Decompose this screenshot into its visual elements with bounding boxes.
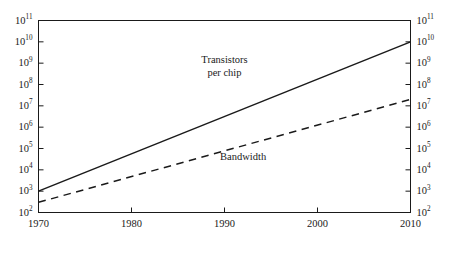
y-axis-left-tick-label: 105	[18, 143, 32, 154]
x-axis-tick-label: 2000	[307, 219, 328, 230]
y-axis-left-tick-label: 104	[18, 165, 32, 176]
y-axis-right-tick-label: 102	[417, 207, 431, 218]
x-axis-tick-label: 1990	[214, 219, 235, 230]
x-axis-tick-label: 1970	[28, 219, 49, 230]
y-axis-right-tick-label: 104	[417, 165, 431, 176]
y-axis-right-tick-label: 106	[417, 122, 431, 133]
y-axis-left-tick-label: 1010	[15, 37, 33, 48]
y-axis-left-tick-label: 107	[18, 101, 32, 112]
series-annotation-transistors-per-chip: Transistorsper chip	[201, 54, 247, 79]
y-axis-right-tick-label: 108	[417, 79, 431, 90]
x-axis-tick-label: 1980	[121, 219, 142, 230]
y-axis-right-tick-label: 105	[417, 143, 431, 154]
y-axis-right-tick-label: 1010	[417, 37, 435, 48]
y-axis-right-tick-label: 103	[417, 186, 431, 197]
chart-figure: 10111010109108107106105104103102 1011101…	[0, 0, 452, 254]
y-axis-left-tick-label: 108	[18, 79, 32, 90]
x-axis-tick-label: 2010	[400, 219, 421, 230]
y-axis-left-tick-label: 106	[18, 122, 32, 133]
y-axis-left-tick-label: 102	[18, 207, 32, 218]
y-axis-right-tick-label: 107	[417, 101, 431, 112]
y-axis-left-tick-label: 1011	[15, 15, 32, 26]
y-axis-left-tick-label: 103	[18, 186, 32, 197]
y-axis-left-tick-label: 109	[18, 58, 32, 69]
series-annotation-bandwidth: Bandwidth	[220, 151, 266, 163]
y-axis-right-tick-label: 109	[417, 58, 431, 69]
y-axis-right-tick-label: 1011	[417, 15, 434, 26]
chart-plot-area	[0, 0, 452, 254]
